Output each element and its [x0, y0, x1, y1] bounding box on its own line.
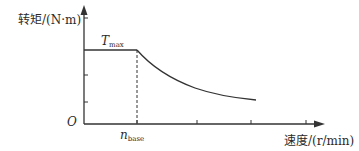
x-axis-arrow-icon	[314, 121, 325, 128]
x-axis-label: 速度/(r/min)	[284, 131, 354, 148]
origin-label: O	[67, 115, 77, 129]
tmax-main: T	[101, 34, 109, 48]
y-axis-label: 转矩/(N·m)	[18, 10, 81, 27]
tmax-annotation: Tmax	[101, 34, 124, 49]
nbase-tick-label: nbase	[120, 128, 144, 143]
tmax-sub: max	[109, 41, 124, 49]
y-axis-arrow-icon	[81, 5, 88, 15]
nbase-main: n	[120, 128, 128, 142]
nbase-sub: base	[128, 135, 144, 143]
constant-power-curve	[137, 50, 256, 100]
